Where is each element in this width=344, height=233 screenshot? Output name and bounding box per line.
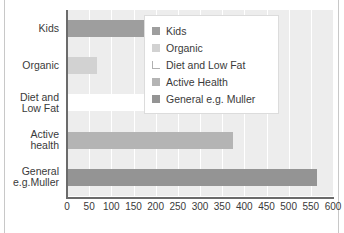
value-tick-label: 550	[302, 201, 319, 212]
chart-page: KidsOrganicDiet andLow FatActivehealthGe…	[0, 0, 344, 233]
value-tick-label: 450	[258, 201, 275, 212]
bar-chart: KidsOrganicDiet andLow FatActivehealthGe…	[10, 6, 334, 222]
legend-swatch-icon	[152, 78, 160, 86]
value-tick-label: 50	[84, 201, 95, 212]
value-tick-label: 400	[236, 201, 253, 212]
value-tick-label: 600	[325, 201, 342, 212]
legend-swatch-icon	[152, 27, 160, 35]
legend-label: Kids	[166, 25, 186, 37]
legend-swatch-icon	[152, 61, 160, 69]
category-label-organic: Organic	[8, 60, 64, 72]
bar-row	[67, 159, 333, 196]
category-label-diet: Diet andLow Fat	[8, 92, 64, 115]
value-tick-label: 250	[169, 201, 186, 212]
category-label-line: Kids	[8, 23, 59, 35]
legend-item: Organic	[152, 39, 271, 56]
category-label-line: e.g.Muller	[8, 177, 59, 189]
chart-legend: KidsOrganicDiet and Low FatActive Health…	[144, 15, 279, 114]
page-border-right	[338, 0, 339, 233]
value-tick-label: 100	[103, 201, 120, 212]
legend-item: Diet and Low Fat	[152, 56, 271, 73]
legend-item: Kids	[152, 22, 271, 39]
value-tick-label: 300	[192, 201, 209, 212]
value-tick-label: 350	[214, 201, 231, 212]
category-label-kids: Kids	[8, 23, 64, 35]
legend-label: Diet and Low Fat	[166, 59, 245, 71]
value-tick-label: 150	[125, 201, 142, 212]
legend-label: Active Health	[166, 76, 228, 88]
value-tick-label: 200	[147, 201, 164, 212]
legend-item: General e.g. Muller	[152, 90, 271, 107]
value-tick-label: 0	[64, 201, 70, 212]
legend-swatch-icon	[152, 44, 160, 52]
legend-item: Active Health	[152, 73, 271, 90]
value-tick-label: 500	[280, 201, 297, 212]
bar-active	[67, 132, 233, 149]
page-border-left	[4, 0, 5, 233]
legend-swatch-icon	[152, 95, 160, 103]
legend-label: General e.g. Muller	[166, 93, 255, 105]
bar-general	[67, 169, 317, 186]
bar-organic	[67, 57, 97, 74]
category-label-line: Organic	[8, 60, 59, 72]
gridline	[333, 10, 334, 196]
bar-kids	[67, 20, 151, 37]
category-label-active: Activehealth	[8, 129, 64, 152]
category-axis-line	[66, 10, 68, 198]
category-label-general: Generale.g.Muller	[8, 166, 64, 189]
bar-row	[67, 122, 333, 159]
legend-label: Organic	[166, 42, 203, 54]
category-label-line: Low Fat	[8, 103, 59, 115]
value-axis-line	[66, 197, 334, 199]
category-label-line: health	[8, 140, 59, 152]
